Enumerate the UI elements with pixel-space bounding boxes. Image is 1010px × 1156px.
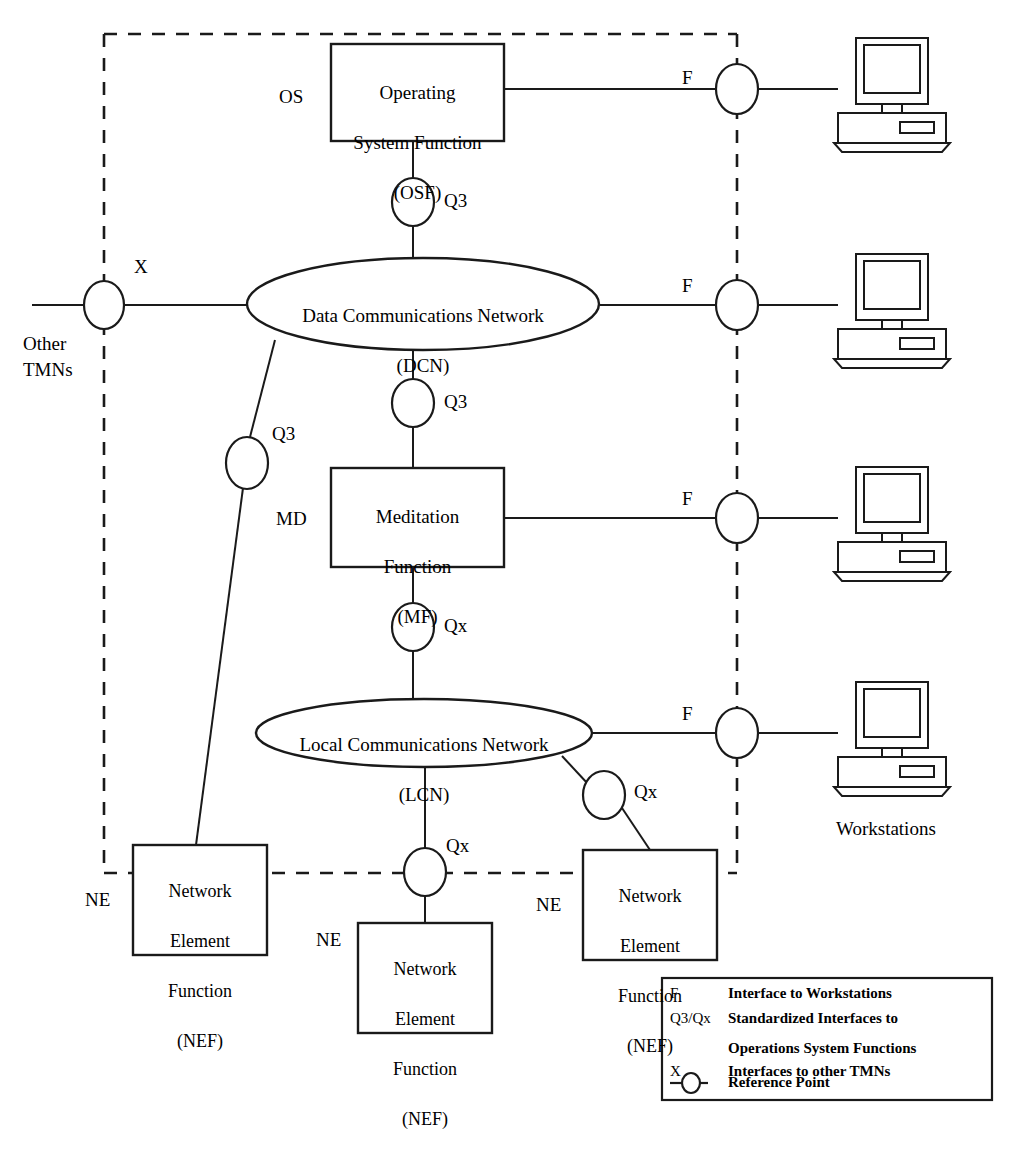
rp-f-lcn-circle [716,708,758,758]
ne-tag-center: NE [316,929,341,951]
rp-f-osf-circle [716,64,758,114]
mf-box [331,468,504,567]
rp-x-circle [84,281,124,329]
rp-qx-mf-lcn-label: Qx [444,615,467,637]
legend-key-x: X [670,1063,681,1080]
line-qx-to-nef-right [620,805,650,850]
workstation-icons [834,38,950,796]
rp-q3-dcn-mf-circle [392,379,434,427]
rp-qx-mf-lcn-circle [392,603,434,651]
workstation-4-icon [834,682,950,796]
legend-key-f: F [670,985,678,1002]
tmn-architecture-diagram: Operating System Function (OSF) Data Com… [0,0,1010,1156]
legend-desc-reference-point: Reference Point [728,1074,830,1091]
legend-desc-f: Interface to Workstations [728,985,892,1002]
rp-f-dcn-label: F [682,275,693,297]
rp-q3-dcn-nef-circle [226,437,268,489]
workstations-caption: Workstations [836,818,936,840]
nef-right-box [583,850,717,960]
rp-q3-osf-dcn-circle [392,178,434,226]
ne-tag-left: NE [85,889,110,911]
diagram-canvas [0,0,1010,1156]
rp-qx-lcn-nef-center-circle [404,848,446,896]
rp-f-dcn-circle [716,280,758,330]
md-tag: MD [276,508,307,530]
osf-box [331,44,504,141]
line-q3-nef-to-nef-left [196,488,243,845]
rp-q3-dcn-mf-label: Q3 [444,391,467,413]
ne-tag-right: NE [536,894,561,916]
rp-x-label: X [134,256,148,278]
lcn-ellipse [256,699,592,767]
rp-f-mf-circle [716,493,758,543]
legend-desc-q3qx: Standardized Interfaces to [728,1010,898,1027]
os-tag: OS [279,86,303,108]
legend-key-q3qx: Q3/Qx [670,1010,711,1027]
nef-left-box [133,845,267,955]
rp-q3-osf-dcn-label: Q3 [444,190,467,212]
workstation-2-icon [834,254,950,368]
other-tmns-label: Other TMNs [23,331,73,383]
rp-qx-lcn-nef-right-circle [583,771,625,819]
workstation-1-icon [834,38,950,152]
rp-f-lcn-label: F [682,703,693,725]
rp-f-osf-label: F [682,67,693,89]
legend-desc-q3qx-cont: Operations System Functions [728,1040,916,1057]
rp-f-mf-label: F [682,488,693,510]
rp-qx-lcn-nef-center-label: Qx [446,835,469,857]
rp-qx-lcn-nef-right-label: Qx [634,781,657,803]
dcn-ellipse [247,258,599,350]
rp-q3-dcn-nef-label: Q3 [272,423,295,445]
nef-center-box [358,923,492,1033]
workstation-3-icon [834,467,950,581]
line-lcn-to-qx-right [562,756,588,784]
